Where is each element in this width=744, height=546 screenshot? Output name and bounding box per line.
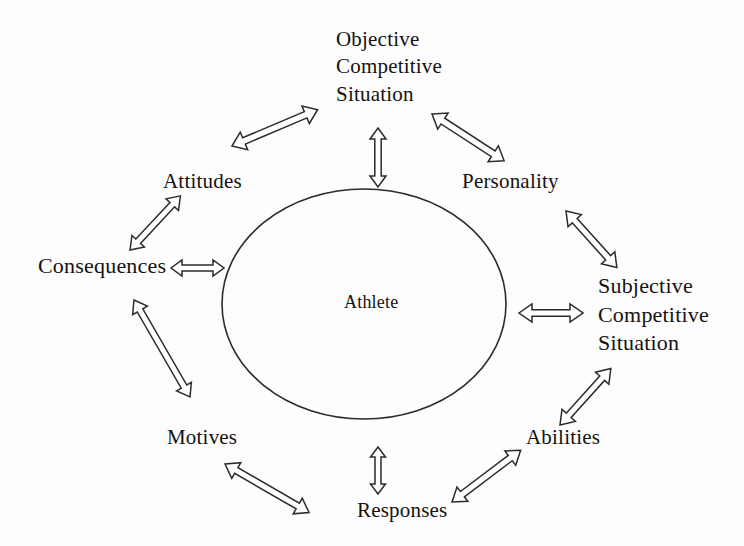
- competition-model-diagram: Objective Competitive Situation Personal…: [0, 0, 744, 546]
- subjective-line-1: Subjective: [598, 272, 709, 301]
- motives-line-1: Motives: [167, 424, 237, 451]
- node-label-personality: Personality: [462, 168, 559, 195]
- connector-objective-to-personality: [427, 106, 509, 169]
- objective-line-3: Situation: [336, 81, 442, 108]
- node-label-responses: Responses: [357, 497, 447, 524]
- node-label-abilities: Abilities: [526, 424, 600, 451]
- node-label-athlete: Athlete: [344, 291, 398, 314]
- connector-consequences-to-athlete: [171, 260, 224, 276]
- connector-responses-to-athlete: [371, 447, 386, 494]
- node-label-consequences: Consequences: [38, 252, 166, 281]
- responses-line-1: Responses: [357, 497, 447, 524]
- node-label-attitudes: Attitudes: [163, 168, 242, 195]
- connector-personality-to-subjective: [559, 205, 623, 274]
- connector-motives-to-responses: [221, 456, 314, 520]
- abilities-line-1: Abilities: [526, 424, 600, 451]
- connector-abilities-to-responses: [447, 443, 527, 509]
- node-label-subjective: Subjective Competitive Situation: [598, 272, 709, 358]
- objective-line-1: Objective: [336, 26, 442, 53]
- node-label-objective: Objective Competitive Situation: [336, 26, 442, 108]
- connector-attitudes-to-objective: [228, 101, 321, 155]
- connector-consequences-to-motives: [127, 296, 198, 401]
- connector-subjective-to-abilities: [553, 362, 617, 431]
- node-label-motives: Motives: [167, 424, 237, 451]
- subjective-line-3: Situation: [598, 329, 709, 358]
- subjective-line-2: Competitive: [598, 301, 709, 330]
- connector-objective-to-athlete: [370, 128, 386, 187]
- connector-subjective-to-athlete: [519, 304, 583, 322]
- consequences-line-1: Consequences: [38, 252, 166, 281]
- personality-line-1: Personality: [462, 168, 559, 195]
- connector-consequences-to-attitudes: [124, 190, 187, 256]
- objective-line-2: Competitive: [336, 53, 442, 80]
- attitudes-line-1: Attitudes: [163, 168, 242, 195]
